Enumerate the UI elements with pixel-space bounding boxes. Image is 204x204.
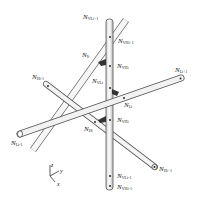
node-label-lj: NLi [124,102,132,109]
node-label-vli: NVLi [92,78,103,85]
node-label-hi-plus: NHi+1 [159,166,172,173]
rod-h [46,84,157,170]
axis-x-label: x [56,181,60,187]
node-label-hi-minus: NHi-1 [32,74,44,81]
node-label-li-minus: NLi-1 [11,140,23,147]
node-label-vhi-plus: NVHi+1 [118,38,134,45]
node-label-li: NIi [82,52,89,59]
node-label-li-plus: NLi+1 [175,67,187,74]
lattice-diagram: z y x [0,0,204,204]
node-label-vhi: NVHi [117,63,129,70]
axis-z-label: z [50,162,54,168]
node-label-hi: NHi [84,126,93,133]
axis-y-label: y [59,168,63,174]
node-label-vli-plus: NVLi+1 [83,14,98,21]
node-label-vli-minus: NVLi-1 [117,173,131,180]
node-label-vhi-b: NVHi [117,117,129,124]
node-label-vhi-minus: NVHi-1 [117,184,132,191]
